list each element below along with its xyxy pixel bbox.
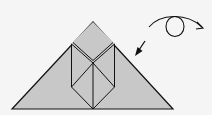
origami-diagram: [0, 0, 212, 115]
fold-arrow-icon: [135, 41, 145, 56]
diagram-canvas: [0, 0, 212, 115]
turn-over-arrow-icon: [149, 16, 203, 36]
